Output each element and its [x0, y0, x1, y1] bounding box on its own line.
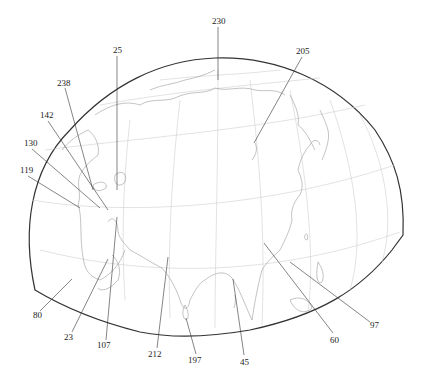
label-197: 197	[188, 355, 202, 365]
globe-outline	[29, 58, 403, 336]
label-119: 119	[20, 165, 34, 175]
globe-map: 230 205 25 238 142 130 119 80	[0, 0, 423, 381]
label-23: 23	[64, 332, 74, 342]
label-230: 230	[212, 16, 226, 26]
label-142: 142	[40, 110, 54, 120]
label-45: 45	[240, 357, 250, 367]
label-97: 97	[370, 320, 380, 330]
label-238: 238	[57, 78, 71, 88]
label-212: 212	[148, 349, 162, 359]
label-80: 80	[33, 310, 43, 320]
label-130: 130	[24, 138, 38, 148]
label-107: 107	[97, 340, 111, 350]
label-60: 60	[330, 335, 340, 345]
label-205: 205	[296, 46, 310, 56]
label-25: 25	[113, 45, 123, 55]
